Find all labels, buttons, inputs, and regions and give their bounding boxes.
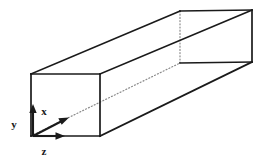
back-top-edge — [180, 10, 252, 11]
z-axis-label: z — [42, 145, 47, 157]
figure-background — [0, 0, 265, 162]
x-axis-label: x — [41, 105, 47, 117]
figure-container: y x z — [0, 0, 265, 162]
back-bottom-edge — [180, 62, 252, 63]
y-axis-label: y — [11, 118, 17, 130]
beam-diagram: y x z — [0, 0, 265, 162]
